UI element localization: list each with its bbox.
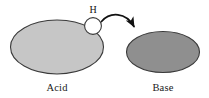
acid-label: Acid [46, 82, 68, 93]
hydrogen-label: H [89, 4, 96, 15]
acid-base-illustration: H Acid Base [0, 0, 209, 98]
hydrogen-circle [85, 18, 102, 35]
acid-base-diagram: H Acid Base [0, 0, 209, 98]
base-label: Base [152, 82, 173, 93]
proton-transfer-arrow [102, 15, 135, 27]
base-ellipse [127, 32, 200, 73]
